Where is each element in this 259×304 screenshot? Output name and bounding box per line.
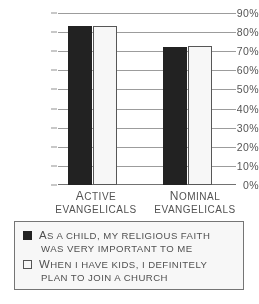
bar-active-series2 [93,26,117,185]
x-axis-label-active-line2: EVANGELICALS [48,204,144,217]
legend-label-series2: WHEN I HAVE KIDS, I DEFINITELY PLAN TO J… [39,258,239,284]
y-tick-mark [51,127,57,128]
legend-swatch-filled-square-icon [23,231,32,240]
bar-nominal-series1 [163,47,187,185]
legend-label-series2-line1: WHEN I HAVE KIDS, I DEFINITELY [39,258,239,271]
x-axis-label-active: ACTIVE EVANGELICALS [48,190,144,216]
y-tick-mark [51,51,57,52]
y-tick-mark [51,165,57,166]
legend-label-series1-line2: WAS VERY IMPORTANT TO ME [41,242,239,255]
bar-chart: 90% 80% 70% 60% 50% 40% 30% 20% 10% 0% [0,0,259,304]
bar-nominal-series2 [188,46,212,186]
y-tick-mark [51,89,57,90]
legend: AS A CHILD, MY RELIGIOUS FAITH WAS VERY … [14,221,244,290]
legend-entry-series1: AS A CHILD, MY RELIGIOUS FAITH WAS VERY … [23,229,239,255]
x-axis-label-nominal: NOMINAL EVANGELICALS [143,190,247,216]
plot-area [58,13,236,185]
x-axis-label-active-line1: ACTIVE [48,190,144,204]
y-tick-mark [51,13,57,14]
x-axis-label-nominal-line2: EVANGELICALS [143,204,247,217]
legend-label-series1: AS A CHILD, MY RELIGIOUS FAITH WAS VERY … [39,229,239,255]
x-axis-label-nominal-line1: NOMINAL [143,190,247,204]
bar-active-series1 [68,26,92,185]
gridline [58,13,236,14]
legend-label-series2-line2: PLAN TO JOIN A CHURCH [41,271,239,284]
y-tick-mark [51,108,57,109]
y-tick-mark [51,32,57,33]
y-tick-mark [51,185,57,186]
legend-swatch-outlined-square-icon [23,260,32,269]
legend-label-series1-line1: AS A CHILD, MY RELIGIOUS FAITH [39,229,239,242]
y-tick-mark [51,146,57,147]
legend-entry-series2: WHEN I HAVE KIDS, I DEFINITELY PLAN TO J… [23,258,239,284]
y-tick-mark [51,70,57,71]
